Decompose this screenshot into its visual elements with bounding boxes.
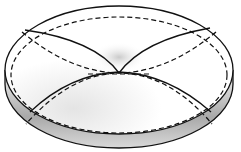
disc-diagram (0, 0, 241, 152)
disc-top-face (5, 6, 233, 134)
diagram-canvas (0, 0, 241, 152)
